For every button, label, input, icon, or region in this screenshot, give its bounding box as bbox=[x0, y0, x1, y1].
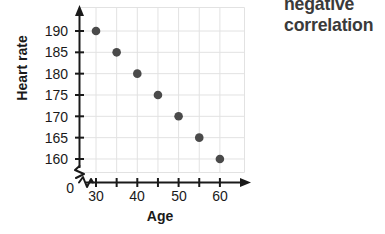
data-point bbox=[133, 69, 142, 78]
y-tick-label-165: 165 bbox=[26, 131, 68, 145]
x-axis-title: Age bbox=[110, 208, 210, 224]
data-points bbox=[92, 27, 225, 164]
x-tick-label-50: 50 bbox=[159, 189, 199, 203]
correlation-annotation: negative correlation bbox=[284, 0, 378, 35]
y-tick-label-170: 170 bbox=[26, 110, 68, 124]
y-tick-label-190: 190 bbox=[26, 24, 68, 38]
annotation-line-2: correlation bbox=[284, 14, 378, 35]
gridlines bbox=[80, 8, 245, 173]
axis-ticks bbox=[75, 31, 220, 187]
data-point bbox=[216, 155, 225, 164]
axis-break-marks bbox=[75, 166, 93, 187]
data-point bbox=[195, 133, 204, 142]
y-tick-label-175: 175 bbox=[26, 88, 68, 102]
scatter-plot-figure: negative correlation Heart rate Age 0 19… bbox=[0, 0, 385, 234]
data-point bbox=[92, 27, 101, 36]
axis-lines bbox=[75, 5, 251, 187]
y-tick-label-185: 185 bbox=[26, 45, 68, 59]
data-point bbox=[154, 91, 163, 100]
data-point bbox=[112, 48, 121, 57]
y-tick-label-160: 160 bbox=[26, 152, 68, 166]
x-tick-label-60: 60 bbox=[200, 189, 240, 203]
data-point bbox=[174, 112, 183, 121]
y-tick-label-180: 180 bbox=[26, 67, 68, 81]
x-tick-label-30: 30 bbox=[76, 189, 116, 203]
origin-label: 0 bbox=[54, 181, 74, 195]
x-tick-label-40: 40 bbox=[117, 189, 157, 203]
annotation-line-1: negative bbox=[284, 0, 378, 14]
